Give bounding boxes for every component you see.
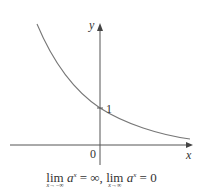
lim-subscript: x→∞ <box>108 182 121 188</box>
lim-subscript: x→−∞ <box>46 182 63 188</box>
limits-caption: limx→−∞ ax = ∞, limx→∞ ax = 0 <box>0 170 203 186</box>
exponential-curve <box>37 24 190 139</box>
y-axis-label: y <box>88 18 95 32</box>
expr-rhs: = 0 <box>136 170 156 185</box>
y-intercept-label: 1 <box>106 102 112 116</box>
limit-pos-inf: limx→∞ <box>106 170 123 186</box>
x-axis-label: x <box>185 148 192 162</box>
y-axis-arrow-icon <box>97 23 103 31</box>
origin-label: 0 <box>90 147 96 161</box>
limit-neg-inf: limx→−∞ <box>46 170 63 186</box>
graph: y x 0 1 <box>0 0 203 195</box>
expr-rhs: = ∞, <box>77 170 103 185</box>
